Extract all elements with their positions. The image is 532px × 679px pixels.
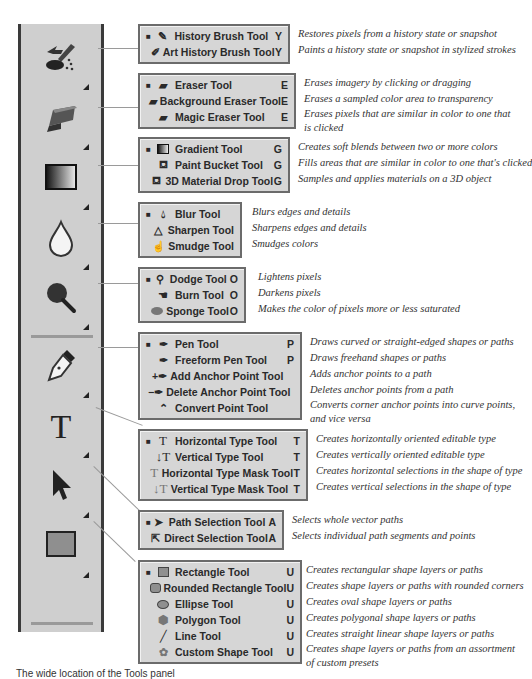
- tool-row[interactable]: THorizontal Type Mask ToolT: [146, 465, 300, 481]
- tool-row[interactable]: ✿Custom Shape ToolU: [146, 644, 294, 660]
- tool-row[interactable]: Ellipse ToolU: [146, 596, 294, 612]
- description-dodge: Lightens pixels Darkens pixels Makes the…: [258, 269, 460, 317]
- type-icon: T: [41, 406, 81, 446]
- tool-row[interactable]: ╱Line ToolU: [146, 628, 294, 644]
- flyout-indicator: [83, 572, 89, 578]
- default-tool-bullet: ■: [146, 32, 154, 41]
- toolbar-eraser[interactable]: [21, 92, 101, 152]
- freeform-pen-icon: ✒: [154, 353, 172, 367]
- custom-shape-icon: ✿: [154, 645, 172, 659]
- toolbar-separator: [31, 622, 93, 625]
- default-tool-bullet: ■: [146, 437, 154, 446]
- flyout-blur: ■💧︎Blur Tool △Sharpen Tool ☝Smudge Tool: [138, 202, 242, 258]
- pen-icon: [41, 346, 81, 386]
- tool-row[interactable]: ■▰Eraser ToolE: [146, 77, 288, 93]
- tool-row[interactable]: ■⚲Dodge ToolO: [146, 271, 238, 287]
- tool-row[interactable]: ■💧︎Blur Tool: [146, 206, 234, 222]
- tool-row[interactable]: ■Gradient ToolG: [146, 141, 282, 157]
- description-type: Creates horizontally oriented editable t…: [316, 431, 522, 495]
- flyout-indicator: [83, 452, 89, 458]
- dodge-icon: ⚲: [152, 272, 166, 286]
- gradient-icon: [41, 158, 81, 198]
- gradient-icon: [154, 142, 172, 156]
- art-history-brush-icon: ✐: [150, 45, 160, 59]
- delete-anchor-icon: −✒: [148, 385, 163, 399]
- leader-line: [98, 107, 142, 108]
- toolbar-rectangle[interactable]: [21, 520, 101, 580]
- toolbar-history-brush[interactable]: [21, 32, 101, 92]
- toolbar-blur[interactable]: [21, 212, 101, 272]
- leader-line: [98, 347, 138, 348]
- tool-row[interactable]: ✒Freeform Pen ToolP: [146, 352, 294, 368]
- direct-selection-icon: ⇱: [151, 531, 162, 545]
- description-gradient: Creates soft blends between two or more …: [298, 139, 532, 187]
- description-shape: Creates rectangular shape layers or path…: [306, 562, 524, 670]
- tool-row[interactable]: ■Rectangle ToolU: [146, 564, 294, 580]
- flyout-indicator: [83, 324, 89, 330]
- tool-row[interactable]: ■✎History Brush ToolY: [146, 28, 282, 44]
- description-eraser: Erases imagery by clicking or dragging E…: [304, 75, 514, 135]
- flyout-gradient: ■Gradient ToolG ⛾Paint Bucket ToolG ⛾3D …: [138, 137, 290, 193]
- flyout-indicator: [83, 144, 89, 150]
- eraser-icon: [41, 98, 81, 138]
- leader-line: [98, 223, 138, 224]
- dodge-icon: [41, 278, 81, 318]
- tool-row[interactable]: ⛾Paint Bucket ToolG: [146, 157, 282, 173]
- tool-row[interactable]: Sponge ToolO: [146, 303, 238, 319]
- toolbar-gradient[interactable]: [21, 152, 101, 212]
- flyout-eraser: ■▰Eraser ToolE ▰Background Eraser ToolE …: [138, 73, 296, 129]
- flyout-history-brush: ■✎History Brush ToolY ✐Art History Brush…: [138, 24, 290, 64]
- tool-row[interactable]: Rounded Rectangle ToolU: [146, 580, 294, 596]
- flyout-pen: ■✒Pen ToolP ✒Freeform Pen ToolP +✒Add An…: [138, 332, 302, 420]
- flyout-indicator: [83, 392, 89, 398]
- description-selection: Selects whole vector paths Selects indiv…: [292, 512, 475, 544]
- tool-row[interactable]: ■THorizontal Type ToolT: [146, 433, 300, 449]
- tool-row[interactable]: +✒Add Anchor Point Tool: [146, 368, 294, 384]
- history-brush-icon: ✎: [154, 29, 172, 43]
- tool-row[interactable]: ⛾3D Material Drop ToolG: [146, 173, 282, 189]
- tool-row[interactable]: ☝Smudge Tool: [146, 238, 234, 254]
- tool-row[interactable]: ↓TVertical Type Mask ToolT: [146, 481, 300, 497]
- sponge-icon: [151, 304, 163, 318]
- tool-row[interactable]: ■➤Path Selection ToolA: [146, 514, 276, 530]
- flyout-dodge: ■⚲Dodge ToolO ☚Burn ToolO Sponge ToolO: [138, 267, 246, 323]
- toolbar-pen[interactable]: [21, 340, 101, 400]
- tool-row[interactable]: ⇱Direct Selection ToolA: [146, 530, 276, 546]
- ellipse-icon: [154, 597, 172, 611]
- rectangle-icon: [41, 526, 81, 566]
- path-selection-icon: [41, 466, 81, 506]
- tool-row[interactable]: −✒Delete Anchor Point Tool: [146, 384, 294, 400]
- tool-row[interactable]: △Sharpen Tool: [146, 222, 234, 238]
- tool-row[interactable]: ✐Art History Brush ToolY: [146, 44, 282, 60]
- flyout-indicator: [83, 512, 89, 518]
- vertical-type-icon: ↓T: [154, 450, 172, 464]
- tool-row[interactable]: ↓TVertical Type ToolT: [146, 449, 300, 465]
- tool-row[interactable]: ⌃Convert Point Tool: [146, 400, 294, 416]
- rectangle-icon: [154, 565, 172, 579]
- toolbar-dodge[interactable]: [21, 272, 101, 332]
- flyout-indicator: [83, 264, 89, 270]
- history-brush-icon: [41, 38, 81, 78]
- material-drop-icon: ⛾: [151, 174, 162, 188]
- default-tool-bullet: ■: [146, 81, 154, 90]
- tool-row[interactable]: ☚Burn ToolO: [146, 287, 238, 303]
- tool-row[interactable]: ■✒Pen ToolP: [146, 336, 294, 352]
- toolbar-separator: [31, 335, 93, 338]
- smudge-icon: ☝: [152, 239, 165, 253]
- default-tool-bullet: ■: [146, 145, 154, 154]
- flyout-indicator: [83, 84, 89, 90]
- tool-row[interactable]: ⬢Polygon ToolU: [146, 612, 294, 628]
- path-selection-icon: ➤: [152, 515, 166, 529]
- tool-row[interactable]: ▰Magic Eraser ToolE: [146, 109, 288, 125]
- pen-icon: ✒: [154, 337, 172, 351]
- horizontal-type-icon: T: [154, 434, 172, 448]
- rounded-rectangle-icon: [150, 581, 161, 595]
- toolbar-path-selection[interactable]: [21, 460, 101, 520]
- leader-line: [98, 165, 138, 166]
- figure-caption: The wide location of the Tools panel: [16, 668, 175, 679]
- tools-panel: T: [18, 24, 104, 632]
- polygon-icon: ⬢: [154, 613, 172, 627]
- toolbar-type[interactable]: T: [21, 400, 101, 460]
- tool-row[interactable]: ▰Background Eraser ToolE: [146, 93, 288, 109]
- blur-icon: [41, 218, 81, 258]
